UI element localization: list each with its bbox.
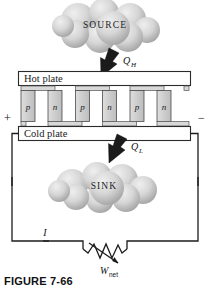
positive-terminal-label: + [4,111,11,125]
thermoelectric-generator-figure: SOURCE Q H Hot plate p n p n [0,0,211,290]
current-label: I [42,227,47,238]
element-label-p-3: p [134,102,140,112]
heat-output-symbol: Q [131,141,139,152]
source-label: SOURCE [83,20,127,30]
element-label-n-1: n [53,102,58,112]
semiconductor-element-group [21,91,171,122]
cold-plate-label: Cold plate [24,128,68,139]
top-interconnect-strips [21,86,189,91]
sink-label: SINK [91,181,118,191]
negative-terminal-label: − [198,111,205,125]
element-label-n-3: n [162,102,167,112]
element-label-p-1: p [25,102,31,112]
heat-output-subscript: L [138,147,143,155]
element-label-p-2: p [79,102,85,112]
figure-canvas: SOURCE Q H Hot plate p n p n [0,0,211,290]
bottom-interconnect-strips [21,122,189,127]
hot-plate-label: Hot plate [24,73,63,84]
figure-caption: FIGURE 7-66 [4,275,73,287]
element-label-n-2: n [107,102,112,112]
work-leader-arrowhead [113,258,119,264]
heat-input-subscript: H [130,61,137,69]
work-subscript: net [109,271,118,278]
heat-input-symbol: Q [123,55,131,66]
load-resistor[interactable] [83,244,127,258]
